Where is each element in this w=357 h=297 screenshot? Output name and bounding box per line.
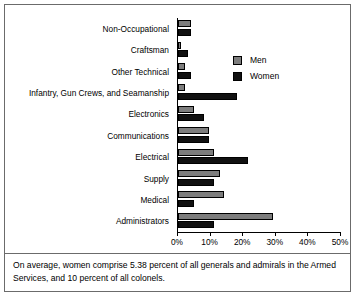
bar-group bbox=[178, 18, 341, 39]
category-label: Infantry, Gun Crews, and Seamanship bbox=[29, 88, 169, 98]
plot-region bbox=[177, 18, 341, 232]
axis-tick-label: 30% bbox=[266, 237, 283, 247]
bar-women bbox=[178, 72, 191, 79]
category-label: Other Technical bbox=[112, 67, 170, 77]
category-label: Administrators bbox=[116, 216, 169, 226]
legend-item: Women bbox=[233, 68, 313, 84]
legend-label: Women bbox=[250, 71, 279, 81]
category-label: Supply bbox=[144, 174, 169, 184]
bar-women bbox=[178, 157, 248, 164]
caption-divider bbox=[5, 253, 350, 254]
bar-group bbox=[178, 104, 341, 125]
axis-tick-label: 10% bbox=[201, 237, 218, 247]
chart-area: Non-OccupationalCraftsmanOther Technical… bbox=[5, 5, 350, 250]
bar-men bbox=[178, 106, 194, 113]
bar-group bbox=[178, 189, 341, 210]
value-axis-baseline bbox=[177, 232, 341, 233]
category-label: Non-Occupational bbox=[103, 24, 169, 34]
bar-group bbox=[178, 211, 341, 232]
bar-women bbox=[178, 114, 204, 121]
bar-women bbox=[178, 200, 194, 207]
bar-group bbox=[178, 168, 341, 189]
legend-item: Men bbox=[233, 52, 313, 68]
bar-women bbox=[178, 93, 237, 100]
figure-caption: On average, women comprise 5.38 percent … bbox=[13, 259, 342, 284]
bar-men bbox=[178, 149, 214, 156]
axis-tick-label: 40% bbox=[299, 237, 316, 247]
legend-swatch-women bbox=[233, 72, 242, 81]
axis-tick bbox=[242, 232, 243, 236]
axis-tick-label: 50% bbox=[332, 237, 349, 247]
bar-men bbox=[178, 170, 220, 177]
bar-group bbox=[178, 125, 341, 146]
bar-men bbox=[178, 127, 209, 134]
category-label: Medical bbox=[140, 195, 169, 205]
legend-swatch-men bbox=[233, 56, 242, 65]
category-label: Electrical bbox=[135, 152, 169, 162]
axis-tick bbox=[210, 232, 211, 236]
bar-men bbox=[178, 20, 191, 27]
axis-tick bbox=[177, 232, 178, 236]
axis-tick bbox=[340, 232, 341, 236]
bar-women bbox=[178, 179, 214, 186]
bar-men bbox=[178, 42, 181, 49]
bar-women bbox=[178, 136, 209, 143]
category-label: Electronics bbox=[128, 109, 169, 119]
axis-tick-label: 0% bbox=[171, 237, 183, 247]
bar-women bbox=[178, 29, 191, 36]
category-label: Craftsman bbox=[131, 45, 169, 55]
bar-women bbox=[178, 221, 214, 228]
bar-men bbox=[178, 191, 224, 198]
legend-label: Men bbox=[250, 55, 267, 65]
bar-men bbox=[178, 63, 185, 70]
bar-men bbox=[178, 84, 185, 91]
chart-legend: MenWomen bbox=[233, 52, 313, 84]
axis-tick-label: 20% bbox=[234, 237, 251, 247]
category-axis-labels: Non-OccupationalCraftsmanOther Technical… bbox=[5, 18, 173, 232]
axis-tick bbox=[275, 232, 276, 236]
axis-tick bbox=[307, 232, 308, 236]
bar-group bbox=[178, 146, 341, 167]
category-label: Communications bbox=[107, 131, 169, 141]
figure-container: Non-OccupationalCraftsmanOther Technical… bbox=[4, 4, 351, 292]
bar-group bbox=[178, 82, 341, 103]
value-axis: 0%10%20%30%40%50% bbox=[177, 232, 342, 250]
bar-women bbox=[178, 50, 188, 57]
bar-men bbox=[178, 213, 273, 220]
